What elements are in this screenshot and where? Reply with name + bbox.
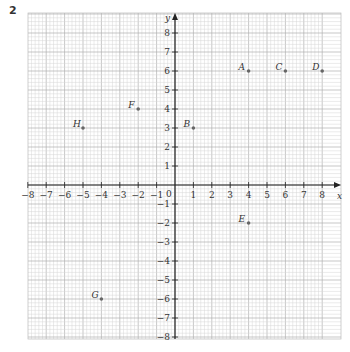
y-tick-label: −3: [157, 237, 171, 247]
y-tick-label: −1: [157, 199, 170, 209]
y-tick-label: 5: [164, 85, 170, 95]
x-tick-label: −6: [58, 190, 72, 200]
svg-text:F: F: [127, 100, 135, 110]
x-tick-label: 7: [301, 190, 307, 200]
x-tick-label: 2: [209, 190, 215, 200]
x-axis-label: x: [337, 191, 342, 201]
y-tick-label: 1: [164, 161, 170, 171]
x-tick-label: −4: [95, 190, 109, 200]
y-tick-label: 6: [164, 66, 170, 76]
origin-label: 0: [166, 189, 172, 199]
x-tick-label: −5: [76, 190, 90, 200]
svg-text:G: G: [91, 290, 98, 300]
x-tick-label: 6: [283, 190, 289, 200]
svg-text:C: C: [275, 62, 282, 72]
grid-lines: [28, 13, 341, 339]
y-tick-label: 7: [164, 47, 170, 57]
y-tick-label: −2: [157, 218, 170, 228]
svg-text:H: H: [72, 119, 81, 129]
x-tick-label: 8: [319, 190, 325, 200]
x-tick-label: −8: [21, 190, 35, 200]
svg-text:E: E: [238, 214, 246, 224]
y-tick-label: 4: [164, 104, 170, 114]
svg-text:B: B: [182, 119, 190, 129]
y-axis-label: y: [164, 13, 171, 23]
axes: xy0: [28, 13, 342, 339]
y-tick-label: −7: [157, 313, 171, 323]
x-tick-label: −3: [113, 190, 127, 200]
coordinate-grid: xy0 −8−7−6−5−4−3−2−112345678−8−7−6−5−4−3…: [0, 0, 350, 352]
y-tick-label: −8: [157, 332, 171, 342]
y-tick-label: 8: [164, 28, 170, 38]
y-tick-label: −4: [157, 256, 171, 266]
y-tick-label: 2: [164, 142, 170, 152]
x-tick-label: −7: [40, 190, 54, 200]
x-tick-label: 5: [264, 190, 270, 200]
x-tick-label: 1: [191, 190, 197, 200]
svg-text:D: D: [311, 62, 319, 72]
y-tick-label: −5: [157, 275, 171, 285]
x-tick-label: 3: [227, 190, 233, 200]
x-tick-label: 4: [246, 190, 252, 200]
x-tick-label: −2: [132, 190, 145, 200]
y-tick-label: −6: [157, 294, 171, 304]
svg-text:A: A: [238, 62, 246, 72]
y-tick-label: 3: [164, 123, 170, 133]
